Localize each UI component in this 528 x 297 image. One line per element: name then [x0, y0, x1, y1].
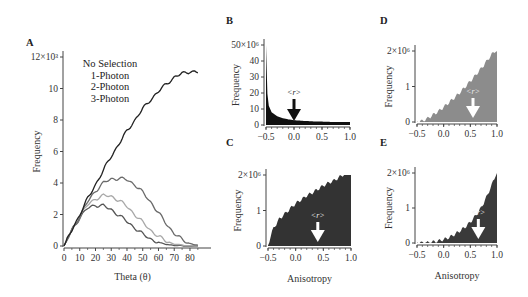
x-tick-label: −0.5 [257, 132, 274, 142]
chart-panel-a: ANo Selection1-Photon2-Photon3-Photon024… [26, 37, 211, 283]
x-tick-label: 80 [185, 253, 195, 263]
histogram-area [417, 51, 497, 122]
y-axis-label: Frequency [383, 65, 394, 107]
legend-item: 3-Photon [91, 93, 130, 104]
x-tick-label: 0 [62, 253, 67, 263]
x-tick-label: 1.0 [345, 253, 357, 263]
legend: No Selection1-Photon2-Photon3-Photon [83, 58, 138, 104]
y-tick-label: 0 [254, 120, 259, 130]
x-axis-label: Anisotropy [435, 270, 480, 281]
x-tick-label: 60 [154, 253, 164, 263]
x-axis-label: Anisotropy [287, 273, 332, 284]
y-tick-label: 1 [405, 203, 410, 213]
y-axis-label: Frequency [230, 64, 241, 106]
mean-anisotropy-arrow-icon: <r> [287, 88, 301, 121]
y-tick-label: 0 [405, 238, 410, 248]
chart-panel-d: D<r>012×10⁶−0.50.00.51.0Frequency [380, 15, 503, 139]
chart-panel-c: C<r>012×10⁶−0.50.00.51.0FrequencyAnisotr… [226, 137, 357, 284]
y-tick-label: 2×10⁶ [387, 46, 410, 56]
histogram-area [268, 175, 351, 246]
x-tick-label: 70 [169, 253, 179, 263]
y-tick-label: 0 [53, 241, 58, 251]
x-tick-label: 0.5 [317, 253, 329, 263]
x-tick-label: 1.0 [344, 132, 356, 142]
y-tick-label: 2×10⁶ [238, 170, 261, 180]
y-tick-label: 1 [256, 206, 261, 216]
chart-panel-b: B<r>01020304050×10⁶−0.50.00.51.0Frequenc… [226, 15, 356, 142]
x-tick-label: −0.5 [408, 129, 425, 139]
series-line-no-selection [64, 71, 198, 246]
y-tick-label: 12×10³ [31, 52, 58, 62]
x-tick-label: −0.5 [408, 250, 425, 260]
x-tick-label: 10 [75, 253, 85, 263]
mean-r-label: <r> [466, 87, 480, 96]
y-tick-label: 2 [53, 210, 58, 220]
y-tick-label: 30 [250, 72, 260, 82]
panel-label: A [26, 37, 34, 48]
legend-item: 1-Photon [91, 70, 130, 81]
x-tick-label: 1.0 [491, 129, 503, 139]
x-tick-label: 0.0 [288, 132, 300, 142]
y-tick-label: 0 [256, 241, 261, 251]
y-axis-label: Frequency [31, 130, 42, 172]
panel-label: C [226, 137, 234, 148]
x-tick-label: 1.0 [491, 250, 503, 260]
panel-label: D [380, 15, 388, 26]
series-line-2-photon [64, 194, 198, 246]
y-tick-label: 10 [250, 104, 260, 114]
x-tick-label: 0.0 [290, 253, 302, 263]
x-tick-label: 50 [138, 253, 148, 263]
panel-label: E [380, 137, 387, 148]
y-axis-label: Frequency [232, 189, 243, 231]
histogram-area [266, 45, 350, 125]
y-tick-label: 4 [53, 178, 58, 188]
x-axis-label: Theta (θ) [114, 271, 151, 283]
mean-r-label: <r> [471, 208, 485, 217]
panel-label: B [226, 15, 233, 26]
y-tick-label: 40 [250, 56, 260, 66]
x-tick-label: 30 [106, 253, 116, 263]
x-tick-label: 20 [91, 253, 101, 263]
y-tick-label: 1 [405, 82, 410, 92]
y-tick-label: 2×10⁶ [387, 168, 410, 178]
x-tick-label: −0.5 [259, 253, 276, 263]
mean-r-label: <r> [287, 88, 301, 97]
legend-item: 2-Photon [91, 81, 130, 92]
x-tick-label: 0.0 [438, 250, 450, 260]
y-tick-label: 8 [53, 115, 58, 125]
chart-panel-e: E<r>012×10⁶−0.50.00.51.0FrequencyAnisotr… [380, 137, 503, 281]
y-axis-label: Frequency [383, 187, 394, 229]
mean-r-label: <r> [311, 211, 325, 220]
x-tick-label: 40 [122, 253, 132, 263]
y-tick-label: 10 [49, 84, 59, 94]
legend-item: No Selection [83, 58, 138, 69]
y-tick-label: 6 [53, 147, 58, 157]
y-tick-label: 20 [250, 88, 260, 98]
y-tick-label: 0 [405, 117, 410, 127]
x-tick-label: 0.5 [464, 129, 476, 139]
figure: ANo Selection1-Photon2-Photon3-Photon024… [0, 0, 528, 297]
x-tick-label: 0.5 [316, 132, 328, 142]
x-tick-label: 0.0 [438, 129, 450, 139]
x-tick-label: 0.5 [464, 250, 476, 260]
y-tick-label: 50×10⁶ [231, 40, 259, 50]
